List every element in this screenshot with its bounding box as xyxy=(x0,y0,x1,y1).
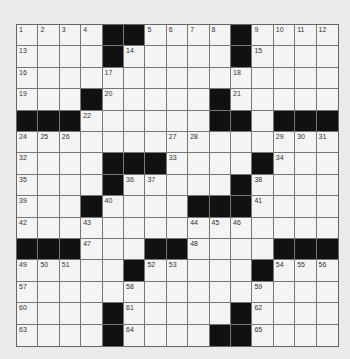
crossword-cell[interactable] xyxy=(60,46,81,67)
crossword-cell[interactable] xyxy=(317,68,338,89)
crossword-cell[interactable] xyxy=(38,175,59,196)
crossword-cell[interactable] xyxy=(81,68,102,89)
crossword-cell[interactable] xyxy=(188,260,209,281)
crossword-cell[interactable]: 33 xyxy=(167,153,188,174)
crossword-cell[interactable] xyxy=(188,68,209,89)
crossword-cell[interactable] xyxy=(38,196,59,217)
crossword-cell[interactable]: 31 xyxy=(317,132,338,153)
crossword-cell[interactable] xyxy=(188,325,209,346)
crossword-cell[interactable] xyxy=(167,303,188,324)
crossword-cell[interactable] xyxy=(274,282,295,303)
crossword-cell[interactable]: 5 xyxy=(145,25,166,46)
crossword-cell[interactable] xyxy=(317,325,338,346)
crossword-cell[interactable] xyxy=(252,218,273,239)
crossword-cell[interactable] xyxy=(274,175,295,196)
crossword-cell[interactable] xyxy=(231,282,252,303)
crossword-cell[interactable] xyxy=(210,282,231,303)
crossword-cell[interactable]: 36 xyxy=(124,175,145,196)
crossword-cell[interactable]: 65 xyxy=(252,325,273,346)
crossword-cell[interactable]: 18 xyxy=(231,68,252,89)
crossword-cell[interactable] xyxy=(295,175,316,196)
crossword-cell[interactable] xyxy=(38,89,59,110)
crossword-cell[interactable] xyxy=(124,239,145,260)
crossword-cell[interactable] xyxy=(295,153,316,174)
crossword-cell[interactable]: 50 xyxy=(38,260,59,281)
crossword-cell[interactable] xyxy=(274,218,295,239)
crossword-cell[interactable]: 60 xyxy=(17,303,38,324)
crossword-cell[interactable]: 52 xyxy=(145,260,166,281)
crossword-cell[interactable] xyxy=(124,111,145,132)
crossword-cell[interactable] xyxy=(145,196,166,217)
crossword-cell[interactable] xyxy=(81,303,102,324)
crossword-cell[interactable] xyxy=(81,46,102,67)
crossword-cell[interactable]: 51 xyxy=(60,260,81,281)
crossword-cell[interactable] xyxy=(145,132,166,153)
crossword-cell[interactable] xyxy=(124,68,145,89)
crossword-cell[interactable] xyxy=(210,153,231,174)
crossword-cell[interactable] xyxy=(124,89,145,110)
crossword-cell[interactable]: 34 xyxy=(274,153,295,174)
crossword-cell[interactable]: 62 xyxy=(252,303,273,324)
crossword-cell[interactable] xyxy=(60,153,81,174)
crossword-cell[interactable] xyxy=(103,282,124,303)
crossword-cell[interactable] xyxy=(231,153,252,174)
crossword-cell[interactable]: 59 xyxy=(252,282,273,303)
crossword-cell[interactable] xyxy=(188,46,209,67)
crossword-cell[interactable]: 49 xyxy=(17,260,38,281)
crossword-cell[interactable] xyxy=(145,325,166,346)
crossword-cell[interactable]: 55 xyxy=(295,260,316,281)
crossword-cell[interactable] xyxy=(252,132,273,153)
crossword-cell[interactable] xyxy=(60,325,81,346)
crossword-cell[interactable] xyxy=(167,68,188,89)
crossword-cell[interactable]: 30 xyxy=(295,132,316,153)
crossword-cell[interactable]: 16 xyxy=(17,68,38,89)
crossword-cell[interactable]: 7 xyxy=(188,25,209,46)
crossword-cell[interactable]: 63 xyxy=(17,325,38,346)
crossword-cell[interactable] xyxy=(103,260,124,281)
crossword-cell[interactable] xyxy=(295,46,316,67)
crossword-cell[interactable] xyxy=(81,260,102,281)
crossword-cell[interactable] xyxy=(38,303,59,324)
crossword-cell[interactable] xyxy=(81,325,102,346)
crossword-cell[interactable] xyxy=(38,282,59,303)
crossword-cell[interactable] xyxy=(274,196,295,217)
crossword-cell[interactable]: 10 xyxy=(274,25,295,46)
crossword-cell[interactable] xyxy=(167,325,188,346)
crossword-cell[interactable] xyxy=(145,68,166,89)
crossword-cell[interactable]: 47 xyxy=(81,239,102,260)
crossword-cell[interactable]: 6 xyxy=(167,25,188,46)
crossword-cell[interactable]: 14 xyxy=(124,46,145,67)
crossword-cell[interactable] xyxy=(210,132,231,153)
crossword-cell[interactable]: 41 xyxy=(252,196,273,217)
crossword-cell[interactable] xyxy=(317,196,338,217)
crossword-cell[interactable]: 8 xyxy=(210,25,231,46)
crossword-cell[interactable] xyxy=(167,89,188,110)
crossword-cell[interactable]: 3 xyxy=(60,25,81,46)
crossword-cell[interactable] xyxy=(188,89,209,110)
crossword-cell[interactable] xyxy=(317,46,338,67)
crossword-cell[interactable] xyxy=(210,303,231,324)
crossword-cell[interactable] xyxy=(38,68,59,89)
crossword-cell[interactable] xyxy=(274,303,295,324)
crossword-cell[interactable]: 21 xyxy=(231,89,252,110)
crossword-cell[interactable] xyxy=(38,153,59,174)
crossword-cell[interactable] xyxy=(317,89,338,110)
crossword-cell[interactable] xyxy=(210,46,231,67)
crossword-cell[interactable] xyxy=(188,303,209,324)
crossword-cell[interactable] xyxy=(210,260,231,281)
crossword-cell[interactable]: 15 xyxy=(252,46,273,67)
crossword-cell[interactable] xyxy=(103,111,124,132)
crossword-cell[interactable]: 35 xyxy=(17,175,38,196)
crossword-cell[interactable]: 1 xyxy=(17,25,38,46)
crossword-cell[interactable] xyxy=(188,153,209,174)
crossword-cell[interactable]: 58 xyxy=(124,282,145,303)
crossword-cell[interactable] xyxy=(317,153,338,174)
crossword-cell[interactable] xyxy=(145,89,166,110)
crossword-cell[interactable] xyxy=(60,218,81,239)
crossword-cell[interactable] xyxy=(188,175,209,196)
crossword-cell[interactable] xyxy=(274,325,295,346)
crossword-cell[interactable] xyxy=(167,46,188,67)
crossword-cell[interactable]: 40 xyxy=(103,196,124,217)
crossword-cell[interactable] xyxy=(317,218,338,239)
crossword-cell[interactable] xyxy=(317,303,338,324)
